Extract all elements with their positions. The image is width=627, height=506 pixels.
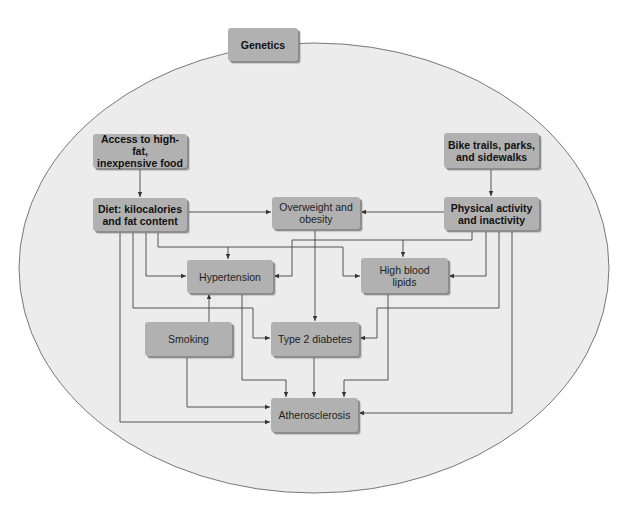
node-diet: Diet: kilocalories and fat content [93, 198, 187, 231]
node-access-food: Access to high-fat, inexpensive food [93, 134, 187, 168]
node-high-blood-lipids-label: High blood lipids [379, 264, 429, 288]
node-diet-label: Diet: kilocalories and fat content [98, 203, 182, 227]
node-bike-trails: Bike trails, parks, and sidewalks [444, 133, 539, 168]
node-smoking-label: Smoking [168, 333, 209, 345]
node-overweight: Overweight and obesity [272, 197, 360, 229]
node-type2-diabetes: Type 2 diabetes [271, 322, 359, 356]
node-high-blood-lipids: High blood lipids [361, 258, 448, 293]
node-atherosclerosis: Atherosclerosis [271, 398, 358, 432]
node-hypertension: Hypertension [187, 260, 273, 293]
node-physical-activity: Physical activity and inactivity [444, 197, 539, 230]
node-bike-trails-label: Bike trails, parks, and sidewalks [448, 139, 535, 163]
node-hypertension-label: Hypertension [199, 271, 261, 283]
node-overweight-label: Overweight and obesity [279, 201, 353, 225]
node-type2-diabetes-label: Type 2 diabetes [278, 333, 352, 345]
node-smoking: Smoking [145, 322, 232, 356]
node-access-food-label: Access to high-fat, inexpensive food [97, 133, 183, 169]
node-physical-activity-label: Physical activity and inactivity [451, 202, 533, 226]
diagram-canvas: Genetics Access to high-fat, inexpensive… [0, 0, 627, 506]
node-atherosclerosis-label: Atherosclerosis [279, 409, 351, 421]
node-genetics-label: Genetics [241, 39, 285, 51]
node-genetics: Genetics [228, 28, 298, 61]
